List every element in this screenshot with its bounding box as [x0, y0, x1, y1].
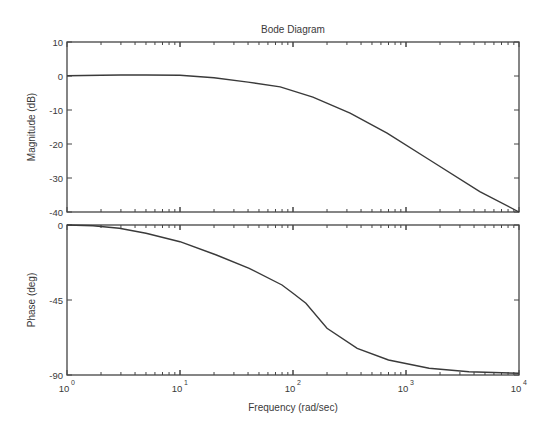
- x-tick-exponent: 2: [297, 379, 301, 386]
- magnitude-y-label: Magnitude (dB): [26, 93, 37, 161]
- y-tick-label: -20: [49, 139, 63, 150]
- y-tick-label: 0: [58, 220, 63, 231]
- phase-panel: 0-45-90 Phase (deg): [26, 220, 519, 381]
- x-tick-label: 10: [172, 383, 183, 394]
- x-tick-label: 10: [59, 383, 70, 394]
- x-tick-label: 10: [285, 383, 296, 394]
- y-tick-label: -45: [49, 295, 63, 306]
- magnitude-y-tick-labels: 100-10-20-30-40: [49, 37, 63, 218]
- x-tick-labels: 100101102103104: [59, 379, 527, 394]
- x-tick-label: 10: [511, 383, 522, 394]
- x-tick-exponent: 4: [523, 379, 527, 386]
- y-tick-label: 10: [52, 37, 63, 48]
- x-tick-exponent: 1: [184, 379, 188, 386]
- x-tick-label: 10: [398, 383, 409, 394]
- phase-y-tick-labels: 0-45-90: [49, 220, 63, 381]
- bode-diagram-figure: Bode Diagram 100-10-20-30-40 Magnitude (…: [0, 0, 546, 435]
- x-tick-exponent: 0: [71, 379, 75, 386]
- magnitude-ticks: [67, 42, 519, 212]
- magnitude-curve: [67, 75, 519, 212]
- phase-y-label: Phase (deg): [26, 273, 37, 327]
- magnitude-axes-frame: [67, 42, 519, 212]
- y-tick-label: -30: [49, 173, 63, 184]
- x-axis-label: Frequency (rad/sec): [248, 402, 337, 413]
- magnitude-panel: 100-10-20-30-40 Magnitude (dB): [26, 37, 519, 218]
- y-tick-label: -10: [49, 105, 63, 116]
- x-tick-exponent: 3: [410, 379, 414, 386]
- y-tick-label: 0: [58, 71, 63, 82]
- phase-ticks: [67, 225, 519, 375]
- phase-curve: [67, 225, 519, 373]
- y-tick-label: -90: [49, 370, 63, 381]
- chart-title: Bode Diagram: [261, 24, 325, 35]
- y-tick-label: -40: [49, 207, 63, 218]
- phase-axes-frame: [67, 225, 519, 375]
